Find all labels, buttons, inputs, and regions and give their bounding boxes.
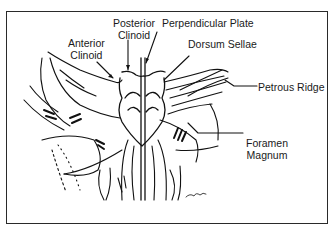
label-petrous-ridge: Petrous Ridge bbox=[258, 81, 325, 93]
label-dorsum-sellae: Dorsum Sellae bbox=[188, 38, 257, 50]
sella-structure bbox=[119, 58, 165, 200]
label-foramen-magnum: Foramen Magnum bbox=[246, 137, 288, 161]
lower-stalks bbox=[99, 140, 181, 200]
label-perpendicular-plate: Perpendicular Plate bbox=[162, 17, 254, 29]
left-hatching bbox=[44, 110, 104, 149]
right-wing bbox=[160, 69, 228, 162]
label-anterior-clinoid: Anterior Clinoid bbox=[68, 37, 105, 61]
signature bbox=[186, 193, 206, 197]
label-posterior-clinoid: Posterior Clinoid bbox=[113, 17, 155, 41]
right-hatching bbox=[174, 128, 186, 141]
anatomy-illustration bbox=[0, 0, 332, 229]
